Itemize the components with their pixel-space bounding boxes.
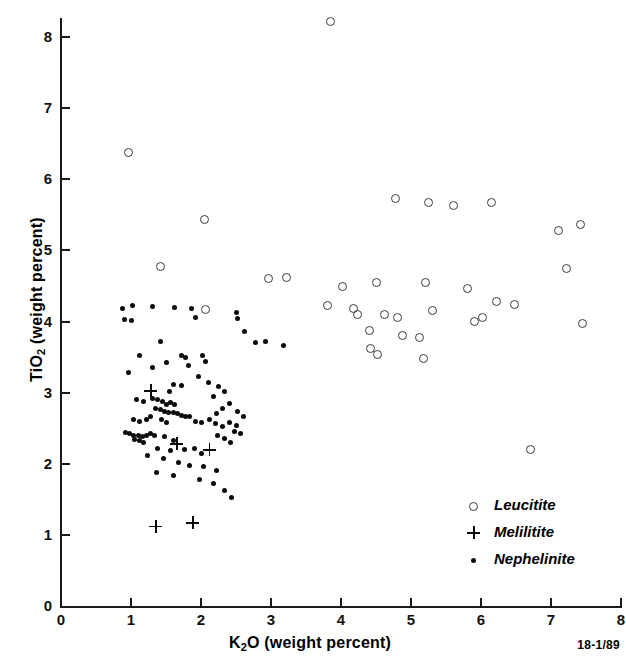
y-tick-mark: [62, 321, 70, 323]
data-point-nephelinite: [150, 304, 155, 309]
data-point-nephelinite: [153, 406, 158, 411]
legend-marker-glyph: [471, 558, 476, 563]
data-point-nephelinite: [136, 433, 141, 438]
data-point-nephelinite: [187, 463, 192, 468]
x-tick-label: 8: [608, 612, 626, 627]
data-point-nephelinite: [232, 429, 237, 434]
data-point-nephelinite: [168, 448, 173, 453]
data-point-leucitite: [156, 262, 165, 271]
data-point-nephelinite: [216, 384, 221, 389]
filled-dot-icon: [466, 552, 482, 568]
data-point-nephelinite: [164, 360, 169, 365]
x-tick-mark: [200, 598, 202, 606]
data-point-nephelinite: [148, 414, 153, 419]
data-point-leucitite: [398, 331, 407, 340]
data-point-leucitite: [487, 198, 496, 207]
data-point-leucitite: [372, 278, 381, 287]
data-point-nephelinite: [154, 470, 159, 475]
data-point-leucitite: [415, 333, 424, 342]
data-point-nephelinite: [141, 399, 146, 404]
y-tick-mark: [62, 107, 70, 109]
data-point-nephelinite: [129, 318, 134, 323]
scatter-plot-figure: 012345678 012345678 TiO2 (weight percent…: [0, 0, 626, 662]
data-point-leucitite: [421, 278, 430, 287]
data-point-nephelinite: [162, 409, 167, 414]
x-tick-label: 5: [398, 612, 424, 627]
data-point-nephelinite: [196, 374, 201, 379]
data-point-nephelinite: [150, 396, 155, 401]
data-point-leucitite: [526, 445, 535, 454]
data-point-nephelinite: [167, 389, 172, 394]
data-point-nephelinite: [215, 433, 220, 438]
data-point-nephelinite: [206, 380, 211, 385]
data-point-leucitite: [428, 306, 437, 315]
y-tick-mark: [62, 534, 70, 536]
data-point-nephelinite: [171, 382, 176, 387]
data-point-nephelinite: [229, 495, 234, 500]
data-point-nephelinite: [187, 414, 192, 419]
data-point-nephelinite: [123, 430, 128, 435]
data-point-leucitite: [463, 284, 472, 293]
data-point-leucitite: [510, 300, 519, 309]
y-tick-mark: [62, 36, 70, 38]
data-point-leucitite: [326, 17, 335, 26]
data-point-leucitite: [576, 220, 585, 229]
x-tick-mark: [410, 598, 412, 606]
data-point-nephelinite: [213, 421, 218, 426]
data-point-leucitite: [562, 264, 571, 273]
data-point-nephelinite: [211, 394, 216, 399]
data-point-leucitite: [366, 344, 375, 353]
data-point-melilitite: [186, 516, 199, 529]
data-point-nephelinite: [176, 460, 181, 465]
x-tick-mark: [340, 598, 342, 606]
data-point-nephelinite: [131, 417, 136, 422]
y-tick-mark: [62, 392, 70, 394]
x-tick-label: 1: [118, 612, 144, 627]
y-tick-label: 7: [26, 100, 52, 115]
data-point-leucitite: [264, 274, 273, 283]
data-point-nephelinite: [222, 488, 227, 493]
data-point-nephelinite: [238, 431, 243, 436]
data-point-nephelinite: [228, 440, 233, 445]
data-point-nephelinite: [144, 433, 149, 438]
x-axis-line: [60, 606, 622, 608]
data-point-leucitite: [323, 301, 332, 310]
data-point-nephelinite: [164, 402, 169, 407]
data-point-leucitite: [201, 305, 210, 314]
data-point-nephelinite: [193, 315, 198, 320]
data-point-nephelinite: [171, 473, 176, 478]
legend-item-label: Melilitite: [494, 523, 554, 540]
data-point-nephelinite: [179, 353, 184, 358]
data-point-nephelinite: [131, 433, 136, 438]
y-tick-mark: [62, 463, 70, 465]
data-point-nephelinite: [235, 409, 240, 414]
data-point-leucitite: [478, 313, 487, 322]
data-point-nephelinite: [197, 477, 202, 482]
x-tick-label: 6: [468, 612, 494, 627]
data-point-nephelinite: [203, 359, 208, 364]
y-tick-label: 8: [26, 29, 52, 44]
x-tick-mark: [620, 598, 622, 606]
data-point-leucitite: [200, 215, 209, 224]
y-tick-label: 2: [26, 456, 52, 471]
data-point-nephelinite: [137, 438, 142, 443]
data-point-nephelinite: [182, 447, 187, 452]
data-point-nephelinite: [148, 431, 153, 436]
data-point-leucitite: [424, 198, 433, 207]
data-point-nephelinite: [201, 464, 206, 469]
data-point-nephelinite: [171, 438, 176, 443]
data-point-leucitite: [492, 297, 501, 306]
y-tick-label: 1: [26, 527, 52, 542]
data-point-nephelinite: [214, 468, 219, 473]
data-point-nephelinite: [164, 420, 169, 425]
data-point-nephelinite: [220, 406, 225, 411]
data-point-leucitite: [282, 273, 291, 282]
x-tick-mark: [130, 598, 132, 606]
y-tick-label: 0: [26, 598, 52, 613]
data-point-melilitite: [144, 384, 157, 397]
legend-item-leucitite: Leucitite: [466, 492, 616, 519]
data-point-nephelinite: [199, 451, 204, 456]
legend: LeucititeMelilititeNephelinite: [466, 492, 616, 573]
legend-item-nephelinite: Nephelinite: [466, 546, 616, 573]
x-tick-label: 2: [188, 612, 214, 627]
